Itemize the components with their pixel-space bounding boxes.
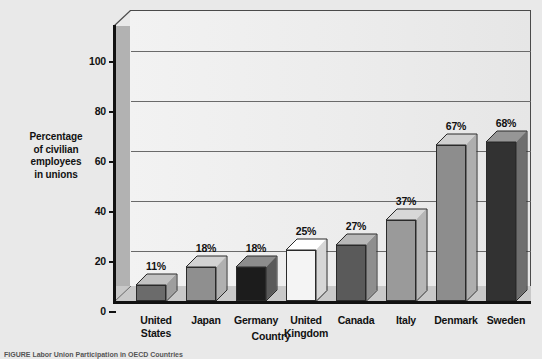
y-axis-title-line-1: Percentage xyxy=(8,131,104,144)
y-tick-60 xyxy=(109,161,116,163)
bar-outline xyxy=(136,274,179,304)
y-tick-20 xyxy=(109,261,116,263)
y-tick-label-60: 60 xyxy=(80,155,106,167)
bar-chart: Percentage of civilian employees in unio… xyxy=(0,0,542,359)
bar-germany xyxy=(236,256,277,301)
bar-value-label: 25% xyxy=(284,225,329,237)
bar-united-kingdom xyxy=(286,239,327,302)
bar-value-label: 18% xyxy=(184,242,229,254)
y-tick-label-40: 40 xyxy=(80,205,106,217)
bar-japan xyxy=(186,256,227,301)
x-axis-label-line: Sweden xyxy=(475,314,537,327)
bar-outline xyxy=(386,209,429,304)
bar-value-label: 68% xyxy=(484,117,529,129)
bar-value-label: 27% xyxy=(334,220,379,232)
bar-outline xyxy=(336,234,379,304)
y-tick-label-20: 20 xyxy=(80,255,106,267)
bar-value-label: 37% xyxy=(384,195,429,207)
bar-outline xyxy=(486,131,529,303)
y-tick-label-0: 0 xyxy=(80,305,106,317)
y-axis-title-line-4: in unions xyxy=(8,169,104,182)
bar-italy xyxy=(386,209,427,302)
gridline-80 xyxy=(131,101,531,102)
bar-outline xyxy=(236,256,279,303)
x-axis-line xyxy=(113,301,531,304)
y-tick-0 xyxy=(109,311,116,313)
figure-caption: FIGURE Labor Union Participation in OECD… xyxy=(4,351,538,359)
bar-value-label: 67% xyxy=(434,120,479,132)
plot-area: 11%18%18%25%27%37%67%68% xyxy=(113,10,531,302)
y-tick-label-80: 80 xyxy=(80,105,106,117)
bar-outline xyxy=(286,239,329,304)
bar-value-label: 11% xyxy=(134,260,179,272)
y-tick-80 xyxy=(109,111,116,113)
y-tick-40 xyxy=(109,211,116,213)
bar-denmark xyxy=(436,134,477,302)
y-tick-label-100: 100 xyxy=(80,55,106,67)
bar-outline xyxy=(186,256,229,303)
bar-canada xyxy=(336,234,377,302)
bar-sweden xyxy=(486,131,527,301)
bar-united-states xyxy=(136,274,177,302)
bar-value-label: 18% xyxy=(234,242,279,254)
y-tick-100 xyxy=(109,61,116,63)
gridline-100 xyxy=(131,51,531,52)
x-axis-title: Country xyxy=(0,330,542,342)
x-axis-label-sweden: Sweden xyxy=(475,314,537,327)
bar-outline xyxy=(436,134,479,304)
